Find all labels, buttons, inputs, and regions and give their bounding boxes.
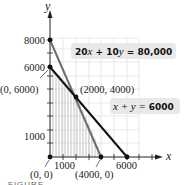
label-0-6000: (0, 6000) [0,84,39,96]
x-axis-label: x [165,149,172,163]
point-4000-0 [99,155,104,160]
point-origin [48,155,53,160]
svg-text:20x + 10y = 80,000: 20x + 10y = 80,000 [75,45,172,57]
x-tick-6000: 6000 [116,160,137,171]
point-6000-0 [125,155,130,160]
svg-text:x + y = 6000: x + y = 6000 [112,100,174,112]
equation-box-2: x + y = 6000 [110,98,180,114]
point-0-6000 [48,65,53,70]
equation-box-1: 20x + 10y = 80,000 [71,43,176,59]
y-tick-1000: 1000 [24,131,45,142]
label-2000-4000: (2000, 4000) [80,84,135,96]
label-4000-0: (4000, 0) [75,169,114,181]
chart: y x 8000 6000 1000 1000 6000 (0, 6000) (… [0,0,190,185]
y-tick-8000: 8000 [24,35,45,46]
figure-caption: FIGURE [8,180,44,185]
point-2000-4000 [74,95,79,100]
x-tick-1000: 1000 [54,160,75,171]
y-tick-6000: 6000 [24,62,45,73]
y-axis-label: y [44,0,51,13]
point-0-8000 [48,38,53,43]
x-axis-arrow-icon [155,155,163,160]
